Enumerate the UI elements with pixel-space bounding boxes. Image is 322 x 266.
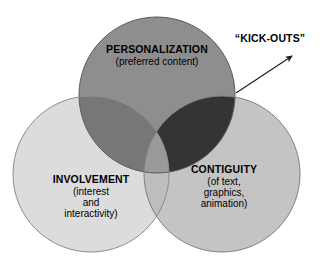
- venn-canvas: [0, 0, 322, 266]
- venn-diagram: PERSONALIZATION (preferred content) INVO…: [0, 0, 322, 266]
- kickouts-arrow: [236, 56, 292, 93]
